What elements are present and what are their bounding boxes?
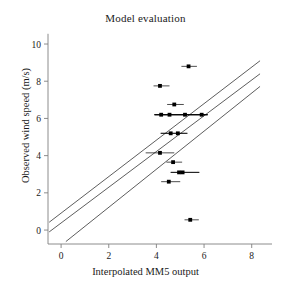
data-point [187, 64, 191, 68]
data-point [167, 180, 171, 184]
x-tick-label: 8 [249, 251, 254, 261]
upper-bound-line [49, 61, 260, 222]
y-tick-label: 2 [36, 188, 41, 198]
y-tick-label: 6 [36, 114, 41, 124]
axes [44, 34, 272, 248]
data-point [181, 170, 185, 174]
data-point [171, 160, 175, 164]
x-tick-label: 6 [202, 251, 207, 261]
y-tick-label: 4 [36, 151, 41, 161]
data-point [172, 103, 176, 107]
x-tick-label: 2 [106, 251, 111, 261]
x-tick-label: 0 [59, 251, 64, 261]
data-points [146, 64, 208, 221]
data-point [200, 113, 204, 117]
data-point [188, 218, 192, 222]
data-point [158, 151, 162, 155]
data-point [176, 131, 180, 135]
chart-figure: Model evaluation Observed wind speed (m/… [0, 0, 291, 290]
data-point [158, 84, 162, 88]
plot-area: 024680246810 [0, 0, 291, 290]
x-tick-label: 4 [154, 251, 159, 261]
reference-lines [49, 61, 260, 242]
y-tick-label: 0 [36, 226, 41, 236]
y-tick-label: 8 [36, 77, 41, 87]
y-tick-label: 10 [32, 40, 42, 50]
lower-bound-line [66, 86, 260, 241]
